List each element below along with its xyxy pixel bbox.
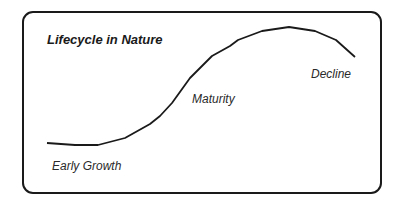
- stage-label-early-growth: Early Growth: [52, 159, 121, 173]
- stage-label-decline: Decline: [311, 67, 351, 81]
- stage-label-maturity: Maturity: [192, 92, 235, 106]
- diagram-title: Lifecycle in Nature: [47, 32, 163, 47]
